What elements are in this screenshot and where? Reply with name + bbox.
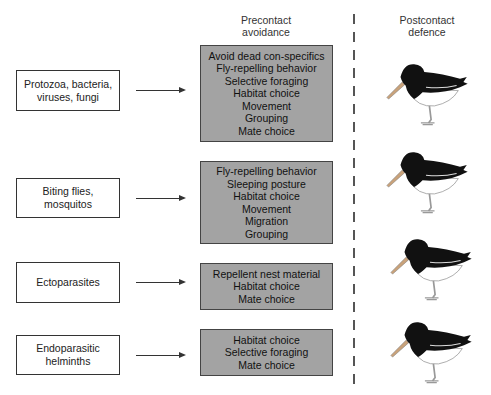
avoidance-item: Selective foraging <box>225 346 308 359</box>
dashed-divider <box>353 14 355 392</box>
avoidance-item: Mate choice <box>238 293 295 306</box>
header-line: avoidance <box>216 26 316 38</box>
avoidance-item: Repellent nest material <box>213 268 320 281</box>
parasite-label: Ectoparasites <box>36 276 100 289</box>
avoidance-item: Habitat choice <box>233 334 300 347</box>
avoidance-item: Habitat choice <box>233 190 300 203</box>
header-line: Precontact <box>216 14 316 26</box>
avoidance-item: Fly-repelling behavior <box>216 165 316 178</box>
parasite-label: Biting flies, <box>43 185 94 198</box>
arrow-icon <box>136 282 184 283</box>
avoidance-item: Sleeping posture <box>227 178 306 191</box>
header-line: defence <box>377 26 477 38</box>
parasite-label: Endoparasitic <box>36 342 100 355</box>
header-precontact-avoidance: Precontact avoidance <box>216 14 316 38</box>
parasite-label: mosquitos <box>43 198 94 211</box>
parasite-label: viruses, fungi <box>24 91 112 104</box>
avoidance-item: Avoid dead con-specifics <box>209 50 325 63</box>
avoidance-item: Habitat choice <box>233 87 300 100</box>
avoidance-item: Grouping <box>245 228 288 241</box>
avoidance-box-ectoparasites: Repellent nest material Habitat choice M… <box>200 263 333 310</box>
arrow-icon <box>136 198 184 199</box>
avoidance-box-protozoa: Avoid dead con-specifics Fly-repelling b… <box>200 45 333 142</box>
avoidance-item: Mate choice <box>238 125 295 138</box>
arrow-icon <box>136 355 184 356</box>
avoidance-item: Movement <box>242 203 291 216</box>
avoidance-item: Habitat choice <box>233 280 300 293</box>
avoidance-item: Selective foraging <box>225 75 308 88</box>
oystercatcher-bird-icon <box>380 235 480 303</box>
oystercatcher-bird-icon <box>380 318 480 386</box>
parasite-label: Protozoa, bacteria, <box>24 78 112 91</box>
header-line: Postcontact <box>377 14 477 26</box>
avoidance-box-endoparasitic-helminths: Habitat choice Selective foraging Mate c… <box>200 329 333 376</box>
oystercatcher-bird-icon <box>376 60 476 128</box>
avoidance-item: Fly-repelling behavior <box>216 62 316 75</box>
avoidance-item: Grouping <box>245 112 288 125</box>
arrow-icon <box>136 90 184 91</box>
oystercatcher-bird-icon <box>376 148 476 216</box>
avoidance-item: Movement <box>242 100 291 113</box>
parasite-box-biting-flies: Biting flies, mosquitos <box>16 178 120 218</box>
header-postcontact-defence: Postcontact defence <box>377 14 477 38</box>
avoidance-item: Mate choice <box>238 359 295 372</box>
avoidance-item: Migration <box>245 215 288 228</box>
parasite-label: helminths <box>36 355 100 368</box>
avoidance-box-biting-flies: Fly-repelling behavior Sleeping posture … <box>200 161 333 244</box>
parasite-box-ectoparasites: Ectoparasites <box>16 262 120 303</box>
parasite-box-protozoa: Protozoa, bacteria, viruses, fungi <box>16 70 120 111</box>
parasite-box-endoparasitic-helminths: Endoparasitic helminths <box>16 335 120 375</box>
